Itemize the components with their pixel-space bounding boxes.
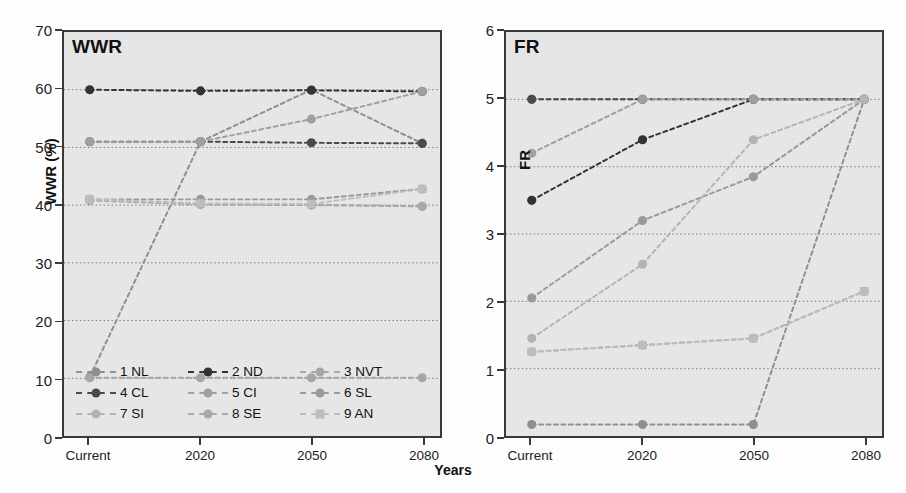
legend-row: 4 CL5 CI6 SL: [76, 382, 412, 403]
data-point: [196, 86, 205, 95]
data-point: [196, 137, 205, 146]
y-tick-mark: [55, 321, 62, 323]
series-line: [532, 291, 864, 352]
series-line: [90, 189, 422, 199]
legend-label: 8 SE: [232, 406, 261, 421]
y-tick-mark: [497, 369, 504, 371]
data-point: [196, 199, 204, 207]
legend-item[interactable]: 3 NVT: [300, 361, 412, 382]
data-point: [418, 202, 427, 211]
data-point: [527, 196, 536, 205]
legend-label: 4 CL: [120, 385, 149, 400]
x-tick-label: 2020: [627, 448, 657, 463]
chart-panel-fr: FR 0123456 Current202020502080: [504, 30, 884, 438]
data-point: [638, 420, 647, 429]
data-point: [527, 420, 536, 429]
data-point: [307, 138, 316, 147]
y-tick-label: 4: [460, 158, 494, 175]
y-tick-label: 60: [18, 80, 52, 97]
y-tick-label: 0: [18, 430, 52, 447]
y-tick-label: 0: [460, 430, 494, 447]
data-point: [638, 341, 646, 349]
legend-label: 5 CI: [232, 385, 257, 400]
data-point: [527, 293, 536, 302]
data-point: [85, 85, 94, 94]
data-point: [749, 420, 758, 429]
legend-item[interactable]: 2 ND: [188, 361, 300, 382]
legend-item[interactable]: 9 AN: [300, 403, 412, 424]
legend-dot-icon: [92, 388, 101, 397]
legend-dot-icon: [204, 367, 213, 376]
x-axis-title: Years: [0, 462, 906, 478]
y-tick-mark: [55, 88, 62, 90]
x-tick-mark: [865, 438, 867, 445]
y-tick-mark: [55, 262, 62, 264]
y-tick-label: 5: [460, 90, 494, 107]
y-tick-mark: [497, 437, 504, 439]
panel-title-wwr: WWR: [72, 36, 122, 58]
data-point: [418, 185, 426, 193]
series-layer-fr: [506, 32, 882, 436]
x-tick-mark: [87, 438, 89, 445]
y-tick-mark: [55, 437, 62, 439]
y-tick-mark: [55, 379, 62, 381]
legend-label: 9 AN: [344, 406, 373, 421]
panel-title-fr: FR: [514, 36, 540, 58]
legend-item[interactable]: 5 CI: [188, 382, 300, 403]
data-point: [638, 216, 647, 225]
x-tick-mark: [311, 438, 313, 445]
legend-item[interactable]: 8 SE: [188, 403, 300, 424]
y-tick-label: 70: [18, 22, 52, 39]
data-point: [418, 373, 427, 382]
x-tick-label: Current: [65, 448, 110, 463]
data-point: [85, 137, 94, 146]
x-tick-mark: [529, 438, 531, 445]
y-tick-mark: [497, 301, 504, 303]
legend-label: 6 SL: [344, 385, 372, 400]
legend-marker-icon: [300, 366, 340, 378]
legend-label: 7 SI: [120, 406, 144, 421]
figure-container: WWR 010203040506070 Current202020502080 …: [0, 0, 906, 493]
data-point: [749, 95, 758, 104]
x-tick-mark: [199, 438, 201, 445]
legend-item[interactable]: 4 CL: [76, 382, 188, 403]
y-tick-label: 10: [18, 371, 52, 388]
legend-item[interactable]: 7 SI: [76, 403, 188, 424]
legend-item[interactable]: 1 NL: [76, 361, 188, 382]
legend-marker-icon: [188, 387, 228, 399]
y-tick-mark: [55, 29, 62, 31]
legend-dot-icon: [316, 388, 325, 397]
data-point: [307, 200, 315, 208]
data-point: [418, 139, 427, 148]
legend-label: 3 NVT: [344, 364, 382, 379]
data-point: [307, 115, 316, 124]
data-point: [860, 95, 869, 104]
series-line: [90, 142, 422, 144]
legend-dot-icon: [92, 367, 101, 376]
legend-marker-icon: [188, 408, 228, 420]
series-line: [90, 189, 422, 204]
data-point: [307, 86, 316, 95]
legend-marker-icon: [300, 408, 340, 420]
y-tick-label: 30: [18, 255, 52, 272]
data-point: [418, 87, 427, 96]
chart-panel-wwr: WWR 010203040506070 Current202020502080 …: [62, 30, 442, 438]
x-tick-label: 2050: [297, 448, 327, 463]
x-tick-label: 2020: [185, 448, 215, 463]
legend-row: 1 NL2 ND3 NVT: [76, 361, 412, 382]
chart-legend: 1 NL2 ND3 NVT4 CL5 CI6 SL7 SI8 SE9 AN: [76, 361, 412, 424]
legend-dot-icon: [316, 367, 325, 376]
legend-dot-icon: [204, 409, 213, 418]
y-tick-label: 1: [460, 362, 494, 379]
legend-dot-icon: [92, 409, 101, 418]
data-point: [528, 348, 536, 356]
y-tick-label: 3: [460, 226, 494, 243]
y-axis-label-fr: FR: [516, 150, 533, 170]
y-tick-label: 20: [18, 313, 52, 330]
legend-item[interactable]: 6 SL: [300, 382, 412, 403]
x-tick-label: 2080: [851, 448, 881, 463]
y-tick-label: 2: [460, 294, 494, 311]
x-tick-label: Current: [507, 448, 552, 463]
series-line: [90, 90, 422, 377]
y-tick-mark: [497, 165, 504, 167]
